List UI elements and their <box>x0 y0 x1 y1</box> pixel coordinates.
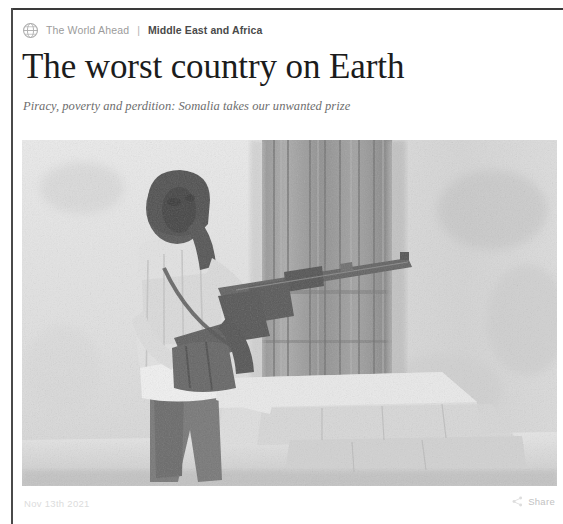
share-button[interactable]: Share <box>512 496 555 507</box>
hero-image <box>22 140 557 486</box>
article-content: The World Ahead | Middle East and Africa… <box>22 8 563 524</box>
breadcrumb-separator: | <box>137 24 140 36</box>
breadcrumb-section[interactable]: The World Ahead <box>46 24 129 36</box>
article-standfirst: Piracy, poverty and perdition: Somalia t… <box>23 97 350 115</box>
page-left-rule <box>11 8 13 524</box>
share-icon <box>512 496 523 507</box>
breadcrumb-topic[interactable]: Middle East and Africa <box>148 24 262 36</box>
share-label: Share <box>528 496 555 507</box>
breadcrumb: The World Ahead | Middle East and Africa <box>22 20 262 40</box>
article-page: The World Ahead | Middle East and Africa… <box>0 0 563 524</box>
globe-icon <box>22 22 39 39</box>
page-title: The worst country on Earth <box>22 46 404 88</box>
article-meta: Nov 13th 2021 Share <box>22 494 557 518</box>
publish-date: Nov 13th 2021 <box>24 498 90 509</box>
